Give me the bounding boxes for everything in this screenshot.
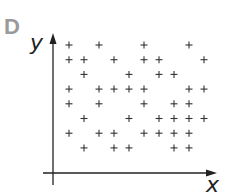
data-point [81, 115, 88, 122]
data-point [66, 56, 73, 63]
data-point [141, 100, 148, 107]
y-axis-arrow-icon [50, 33, 57, 44]
data-point [171, 100, 178, 107]
data-point [66, 86, 73, 93]
x-axis-arrow-icon [206, 170, 217, 177]
data-point [66, 100, 73, 107]
data-point [126, 86, 133, 93]
data-point [171, 115, 178, 122]
data-point [171, 130, 178, 137]
data-point [186, 86, 193, 93]
data-point [66, 130, 73, 137]
data-point [186, 115, 193, 122]
data-point [81, 56, 88, 63]
data-point [141, 42, 148, 49]
data-point [96, 86, 103, 93]
data-point [201, 56, 208, 63]
axes [43, 40, 210, 185]
data-point [96, 100, 103, 107]
data-point [186, 42, 193, 49]
data-point [186, 100, 193, 107]
data-point [156, 115, 163, 122]
scatter-plot [0, 0, 225, 196]
data-point [141, 130, 148, 137]
data-point [171, 71, 178, 78]
data-point [96, 130, 103, 137]
data-point [186, 130, 193, 137]
data-point [96, 42, 103, 49]
data-point [141, 86, 148, 93]
data-point [171, 144, 178, 151]
data-point [201, 86, 208, 93]
data-point [156, 130, 163, 137]
data-point [126, 115, 133, 122]
data-points [66, 42, 208, 152]
data-point [111, 56, 118, 63]
data-point [156, 71, 163, 78]
data-point [111, 86, 118, 93]
data-point [81, 144, 88, 151]
data-point [66, 42, 73, 49]
data-point [186, 144, 193, 151]
data-point [126, 144, 133, 151]
data-point [141, 56, 148, 63]
data-point [111, 130, 118, 137]
data-point [201, 115, 208, 122]
data-point [126, 71, 133, 78]
data-point [111, 144, 118, 151]
data-point [81, 71, 88, 78]
data-point [156, 56, 163, 63]
